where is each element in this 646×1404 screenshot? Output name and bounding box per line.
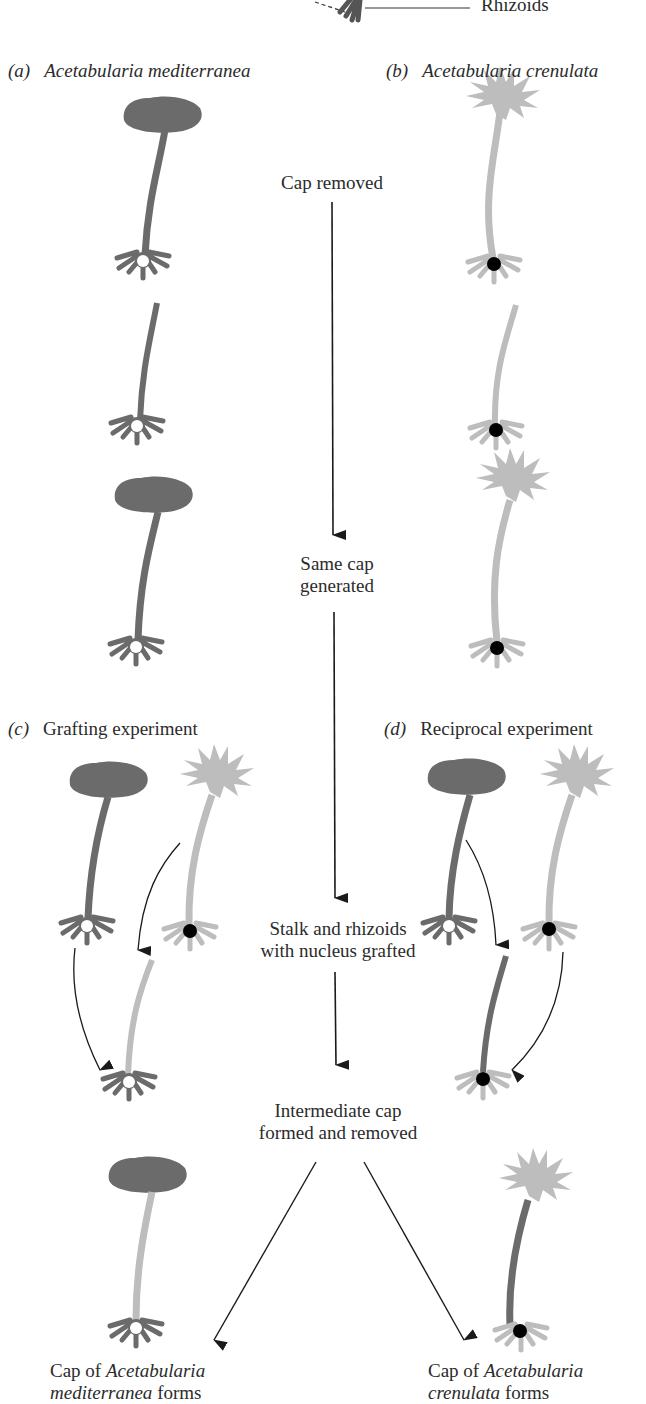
step-same-cap-line2: generated xyxy=(252,575,422,597)
figure-artwork xyxy=(0,0,646,1404)
c-grafted-result xyxy=(103,960,155,1099)
step-intermediate: Intermediate cap formed and removed xyxy=(238,1100,438,1144)
result-right-prefix: Cap of xyxy=(428,1360,484,1381)
panel-c-letter: (c) xyxy=(8,718,29,739)
step-cap-removed: Cap removed xyxy=(252,172,412,194)
result-left-prefix: Cap of xyxy=(50,1360,106,1381)
b-cren-intact xyxy=(466,66,540,282)
panel-a-heading: (a)Acetabularia mediterranea xyxy=(8,60,250,82)
result-right-species: crenulata xyxy=(428,1382,500,1403)
result-left-genus: Acetabularia xyxy=(106,1360,205,1381)
result-right-genus: Acetabularia xyxy=(484,1360,583,1381)
diverging-arrow-left xyxy=(214,1162,316,1340)
step-intermediate-line2: formed and removed xyxy=(238,1122,438,1144)
step-same-cap-line1: Same cap xyxy=(252,553,422,575)
central-arrow-2 xyxy=(334,612,335,898)
step-grafted: Stalk and rhizoids with nucleus grafted xyxy=(228,918,448,962)
panel-b-letter: (b) xyxy=(386,60,408,81)
step-intermediate-line1: Intermediate cap xyxy=(238,1100,438,1122)
panel-c-heading: (c)Grafting experiment xyxy=(8,718,198,740)
result-left-suffix: forms xyxy=(152,1382,201,1403)
step-grafted-line1: Stalk and rhizoids xyxy=(228,918,448,940)
result-left-caption: Cap of Acetabularia mediterranea forms xyxy=(50,1360,205,1404)
result-right-suffix: forms xyxy=(500,1382,549,1403)
a-med-regenerated xyxy=(110,476,193,664)
diverging-arrow-right xyxy=(364,1162,464,1340)
panel-b-heading: (b)Acetabularia crenulata xyxy=(386,60,598,82)
panel-a-letter: (a) xyxy=(8,60,30,81)
rhizoids-label: Rhizoids xyxy=(481,0,549,16)
top-rhizoid-fragment xyxy=(315,0,470,20)
panel-c-title: Grafting experiment xyxy=(43,718,198,739)
panel-a-title: Acetabularia mediterranea xyxy=(44,60,250,81)
c-med-donor xyxy=(61,761,148,943)
d-cren-donor xyxy=(523,744,614,949)
result-right-caption: Cap of Acetabularia crenulata forms xyxy=(428,1360,583,1404)
panel-d-title: Reciprocal experiment xyxy=(420,718,593,739)
a-med-intact xyxy=(117,96,202,278)
step-same-cap: Same cap generated xyxy=(252,553,422,597)
panel-d-heading: (d)Reciprocal experiment xyxy=(384,718,593,740)
result-left-species: mediterranea xyxy=(50,1382,152,1403)
result-cren-cap xyxy=(495,1148,573,1350)
b-cren-regenerated xyxy=(471,448,550,666)
a-med-capless xyxy=(111,303,163,443)
step-grafted-line2: with nucleus grafted xyxy=(228,940,448,962)
panel-d-letter: (d) xyxy=(384,718,406,739)
b-cren-capless xyxy=(470,305,522,448)
d-grafted-result xyxy=(457,956,509,1098)
panel-b-title: Acetabularia crenulata xyxy=(422,60,598,81)
acetabularia-figure: Rhizoids (a)Acetabularia mediterranea (b… xyxy=(0,0,646,1404)
result-med-cap xyxy=(109,1156,187,1346)
central-arrow-1 xyxy=(332,202,333,535)
central-arrow-3 xyxy=(335,972,336,1065)
